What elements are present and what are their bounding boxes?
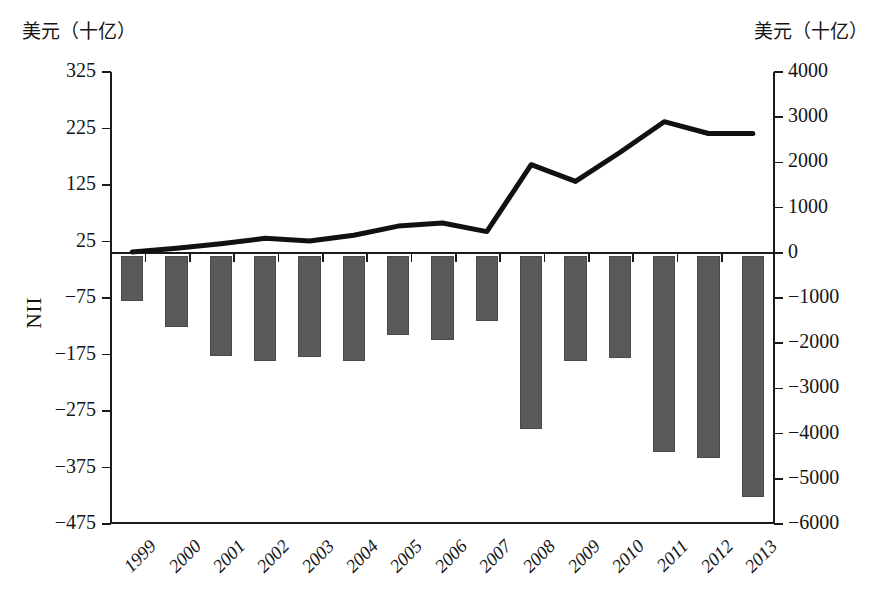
bar (476, 256, 498, 321)
x-tick-mark (366, 253, 368, 262)
right-tick-mark (774, 478, 783, 480)
x-tick-mark (632, 253, 634, 262)
left-tick-mark (102, 467, 111, 469)
bar (609, 256, 631, 359)
x-tick-mark (189, 253, 191, 262)
left-tick-label: −275 (32, 398, 96, 421)
chart-figure: 美元（十亿） 美元（十亿） NII 32522512525−75−175−275… (0, 0, 882, 612)
left-tick-label: 225 (32, 116, 96, 139)
right-tick-mark (774, 342, 783, 344)
right-tick-label: −3000 (788, 375, 874, 398)
left-tick-label: 25 (32, 229, 96, 252)
right-tick-mark (774, 252, 783, 254)
bar (298, 256, 320, 357)
right-tick-label: 0 (788, 240, 874, 263)
right-tick-mark (774, 388, 783, 390)
right-tick-mark (774, 116, 783, 118)
x-tick-mark (721, 253, 723, 262)
left-tick-mark (102, 354, 111, 356)
bar (387, 256, 409, 336)
left-axis-unit-label: 美元（十亿） (22, 16, 136, 43)
right-tick-label: 2000 (788, 149, 874, 172)
right-tick-label: −6000 (788, 511, 874, 534)
x-tick-mark (322, 253, 324, 262)
left-tick-mark (102, 184, 111, 186)
x-tick-mark (544, 253, 546, 262)
right-tick-label: −2000 (788, 330, 874, 353)
x-tick-mark (145, 253, 147, 262)
right-tick-label: −5000 (788, 466, 874, 489)
left-tick-mark (102, 523, 111, 525)
right-tick-mark (774, 523, 783, 525)
x-tick-mark (233, 253, 235, 262)
left-tick-label: −375 (32, 455, 96, 478)
x-tick-mark (455, 253, 457, 262)
bar (653, 256, 675, 453)
left-tick-label: 325 (32, 59, 96, 82)
left-tick-mark (102, 297, 111, 299)
right-tick-mark (774, 162, 783, 164)
bar (697, 256, 719, 459)
left-tick-label: −475 (32, 511, 96, 534)
bar (742, 256, 764, 497)
bar (520, 256, 542, 429)
bar (121, 256, 143, 301)
left-tick-label: −75 (32, 285, 96, 308)
right-tick-label: 3000 (788, 104, 874, 127)
left-tick-mark (102, 241, 111, 243)
bar (431, 256, 453, 340)
left-tick-label: 125 (32, 172, 96, 195)
x-tick-mark (278, 253, 280, 262)
left-tick-mark (102, 410, 111, 412)
x-tick-mark (411, 253, 413, 262)
right-axis-unit-label: 美元（十亿） (754, 16, 868, 43)
right-tick-mark (774, 207, 783, 209)
right-tick-label: −4000 (788, 421, 874, 444)
left-tick-mark (102, 71, 111, 73)
right-tick-label: 1000 (788, 195, 874, 218)
bar (254, 256, 276, 362)
bar (343, 256, 365, 361)
bar (165, 256, 187, 327)
x-tick-mark (499, 253, 501, 262)
bar (210, 256, 232, 357)
left-tick-label: −175 (32, 342, 96, 365)
right-tick-label: −1000 (788, 285, 874, 308)
right-tick-mark (774, 297, 783, 299)
left-tick-mark (102, 128, 111, 130)
x-tick-mark (677, 253, 679, 262)
bar (564, 256, 586, 361)
right-tick-mark (774, 433, 783, 435)
zero-baseline (110, 252, 775, 254)
x-tick-mark (588, 253, 590, 262)
right-tick-mark (774, 71, 783, 73)
right-tick-label: 4000 (788, 59, 874, 82)
